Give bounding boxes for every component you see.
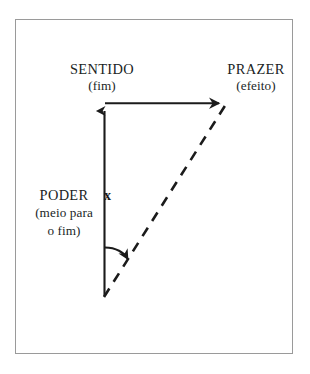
figure-canvas: SENTIDO (fim) PRAZER (efeito) PODER (mei… — [0, 0, 310, 374]
poder-to-prazer-dashed-line — [104, 101, 228, 297]
deviation-curved-arrow — [105, 248, 128, 259]
label-sentido: SENTIDO (fim) — [62, 62, 142, 92]
label-poder-title: PODER — [25, 188, 103, 203]
cross-mark: x — [101, 188, 114, 204]
label-poder-subtitle-line1: (meio para — [25, 205, 103, 221]
label-poder-subtitle-line2: o fim) — [25, 223, 103, 239]
label-poder: PODER (meio para o fim) — [25, 188, 103, 239]
label-sentido-subtitle: (fim) — [62, 79, 142, 92]
label-prazer-subtitle: (efeito) — [221, 79, 291, 92]
label-prazer: PRAZER (efeito) — [221, 62, 291, 92]
label-prazer-title: PRAZER — [221, 62, 291, 77]
label-sentido-title: SENTIDO — [62, 62, 142, 77]
